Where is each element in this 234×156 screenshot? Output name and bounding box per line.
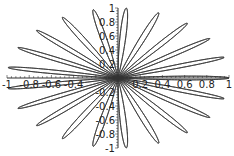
x-tick-label: -0.8: [19, 79, 39, 90]
x-tick-label: 0.2: [132, 79, 148, 90]
x-tick-label: 1: [226, 79, 232, 90]
y-tick-label: -0.2: [95, 87, 115, 98]
y-tick-label: 0.2: [99, 59, 115, 70]
polar-rose-plot: -1-0.8-0.6-0.40.20.40.60.81 10.80.60.40.…: [0, 0, 234, 156]
y-tick-label: -1: [105, 143, 115, 154]
x-tick-label: 0.4: [154, 79, 170, 90]
x-tick-label: 0.6: [177, 79, 193, 90]
y-tick-label: -0.4: [95, 101, 115, 112]
y-tick-label: 0.4: [99, 45, 115, 56]
y-tick-label: 0.6: [99, 31, 115, 42]
y-tick-label: 0.8: [99, 17, 115, 28]
x-tick-label: 0.8: [199, 79, 215, 90]
y-tick-label: -0.6: [95, 115, 115, 126]
x-tick-label: -0.4: [64, 79, 84, 90]
y-tick-label: 1: [109, 3, 115, 14]
y-tick-label: -0.8: [95, 129, 115, 140]
axes-layer: -1-0.8-0.6-0.40.20.40.60.81 10.80.60.40.…: [2, 3, 232, 154]
x-tick-label: -1: [2, 79, 12, 90]
x-tick-label: -0.6: [42, 79, 62, 90]
